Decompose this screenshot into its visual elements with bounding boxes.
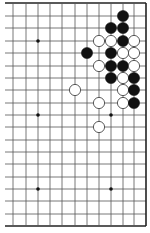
white-stone[interactable] bbox=[128, 35, 139, 46]
white-stone[interactable] bbox=[69, 84, 80, 95]
star-point bbox=[109, 113, 113, 117]
white-stone[interactable] bbox=[117, 97, 128, 108]
black-stone[interactable] bbox=[128, 72, 139, 83]
go-board[interactable] bbox=[0, 0, 150, 233]
white-stone[interactable] bbox=[93, 35, 104, 46]
black-stone[interactable] bbox=[81, 47, 92, 58]
black-stone[interactable] bbox=[128, 97, 139, 108]
black-stone[interactable] bbox=[105, 22, 116, 33]
white-stone[interactable] bbox=[117, 47, 128, 58]
black-stone[interactable] bbox=[105, 72, 116, 83]
black-stone[interactable] bbox=[117, 22, 128, 33]
white-stone[interactable] bbox=[128, 60, 139, 71]
star-point bbox=[36, 187, 40, 191]
white-stone[interactable] bbox=[105, 35, 116, 46]
star-point bbox=[36, 39, 40, 43]
black-stone[interactable] bbox=[117, 35, 128, 46]
white-stone[interactable] bbox=[128, 47, 139, 58]
black-stone[interactable] bbox=[105, 60, 116, 71]
white-stone[interactable] bbox=[117, 84, 128, 95]
black-stone[interactable] bbox=[117, 60, 128, 71]
white-stone[interactable] bbox=[93, 121, 104, 132]
white-stone[interactable] bbox=[93, 60, 104, 71]
black-stone[interactable] bbox=[105, 47, 116, 58]
black-stone[interactable] bbox=[117, 10, 128, 21]
star-point bbox=[36, 113, 40, 117]
white-stone[interactable] bbox=[117, 72, 128, 83]
white-stone[interactable] bbox=[93, 97, 104, 108]
stones-layer bbox=[69, 10, 139, 132]
black-stone[interactable] bbox=[128, 84, 139, 95]
star-point bbox=[109, 187, 113, 191]
